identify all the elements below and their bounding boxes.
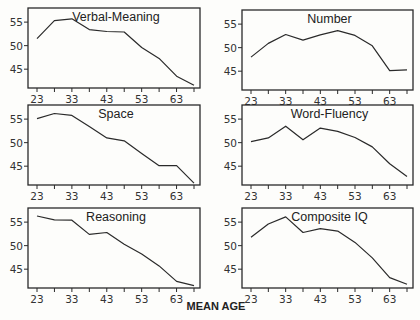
x-axis-label: MEAN AGE xyxy=(187,300,246,312)
panels-group: Verbal-Meaning4550552333435363Number4550… xyxy=(10,8,413,305)
x-tick-label: 63 xyxy=(170,93,183,105)
y-tick-label: 50 xyxy=(224,42,237,54)
x-tick-label: 63 xyxy=(170,293,183,305)
y-tick-label: 55 xyxy=(10,113,23,125)
small-multiples-chart: Verbal-Meaning4550552333435363Number4550… xyxy=(0,0,420,320)
y-tick-label: 55 xyxy=(224,216,237,228)
y-tick-label: 45 xyxy=(10,160,23,172)
y-tick-label: 45 xyxy=(10,263,23,275)
x-tick-label: 53 xyxy=(135,93,148,105)
x-tick-label: 63 xyxy=(170,190,183,202)
x-tick-label: 33 xyxy=(279,190,292,202)
y-tick-label: 50 xyxy=(10,137,23,149)
x-tick-label: 63 xyxy=(383,190,396,202)
y-tick-label: 50 xyxy=(10,40,23,52)
x-tick-label: 53 xyxy=(135,293,148,305)
x-tick-label: 43 xyxy=(100,93,113,105)
x-tick-label: 33 xyxy=(279,293,292,305)
panel-title: Word-Fluency xyxy=(291,107,369,121)
panel-reasoning: Reasoning4550552333435363 xyxy=(10,208,200,305)
x-tick-label: 23 xyxy=(244,190,257,202)
x-tick-label: 43 xyxy=(100,190,113,202)
y-tick-label: 55 xyxy=(224,18,237,30)
y-tick-label: 45 xyxy=(10,63,23,75)
x-tick-label: 23 xyxy=(30,190,43,202)
data-line xyxy=(37,19,194,85)
x-tick-label: 23 xyxy=(244,293,257,305)
panel-composite-iq: Composite IQ4550552333435363 xyxy=(224,208,413,305)
y-tick-label: 45 xyxy=(224,263,237,275)
panel-space: Space4550552333435363 xyxy=(10,105,200,202)
data-line xyxy=(37,216,194,286)
y-tick-label: 45 xyxy=(224,65,237,77)
y-tick-label: 45 xyxy=(224,160,237,172)
y-tick-label: 55 xyxy=(10,216,23,228)
x-tick-label: 53 xyxy=(348,293,361,305)
x-tick-label: 33 xyxy=(65,93,78,105)
x-tick-label: 33 xyxy=(65,293,78,305)
panel-title: Verbal-Meaning xyxy=(72,10,160,24)
data-line xyxy=(251,31,407,71)
panel-number: Number4550552333435363 xyxy=(224,10,413,107)
panel-title: Composite IQ xyxy=(291,210,368,224)
y-tick-label: 50 xyxy=(224,137,237,149)
y-tick-label: 55 xyxy=(10,16,23,28)
x-tick-label: 53 xyxy=(135,190,148,202)
y-tick-label: 50 xyxy=(224,240,237,252)
x-tick-label: 23 xyxy=(30,293,43,305)
x-tick-label: 43 xyxy=(314,293,327,305)
x-tick-label: 33 xyxy=(65,190,78,202)
x-tick-label: 63 xyxy=(383,293,396,305)
y-tick-label: 50 xyxy=(10,240,23,252)
panel-title: Space xyxy=(98,107,133,121)
panel-title: Number xyxy=(307,12,351,26)
x-tick-label: 43 xyxy=(314,190,327,202)
panel-verbal-meaning: Verbal-Meaning4550552333435363 xyxy=(10,8,200,105)
y-tick-label: 55 xyxy=(224,113,237,125)
data-line xyxy=(37,114,194,184)
panel-word-fluency: Word-Fluency4550552333435363 xyxy=(224,105,413,202)
data-line xyxy=(251,217,407,284)
x-tick-label: 43 xyxy=(100,293,113,305)
x-tick-label: 23 xyxy=(30,93,43,105)
panel-title: Reasoning xyxy=(86,210,146,224)
data-line xyxy=(251,126,407,176)
x-tick-label: 53 xyxy=(348,190,361,202)
